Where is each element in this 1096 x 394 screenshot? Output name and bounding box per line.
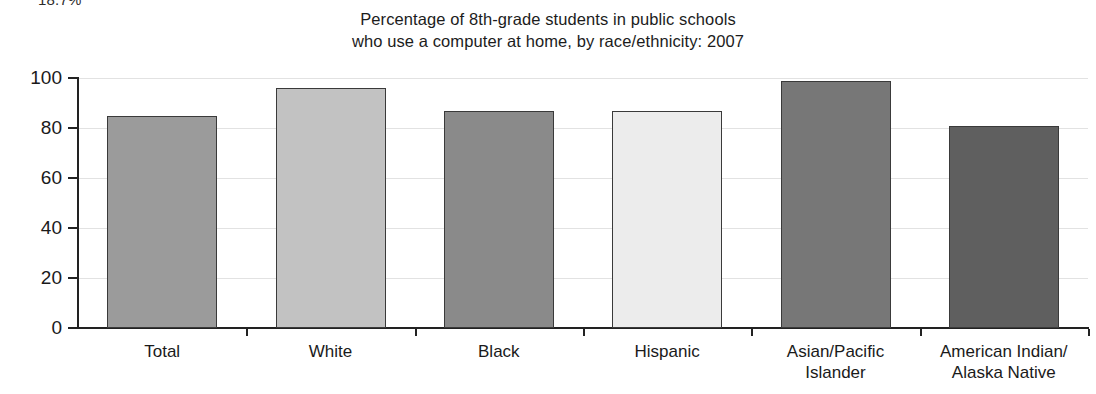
bar-black — [444, 111, 554, 329]
x-axis-tick — [751, 329, 753, 336]
clipped-text-fragment: 18.7% — [38, 0, 82, 8]
y-axis-tick — [68, 77, 78, 79]
chart-title-line-2: who use a computer at home, by race/ethn… — [0, 30, 1096, 52]
y-axis-tick-label: 20 — [0, 268, 62, 287]
y-axis-line — [77, 77, 79, 329]
category-label-line-1: White — [309, 342, 352, 361]
y-axis-tick — [68, 327, 78, 329]
bar-white — [276, 88, 386, 328]
y-axis-tick-label: 0 — [0, 318, 62, 337]
y-axis-tick — [68, 227, 78, 229]
y-axis-tick — [68, 127, 78, 129]
category-label-asian-pacific-islander: Asian/PacificIslander — [751, 341, 919, 383]
gridline — [78, 228, 1088, 229]
x-axis-tick — [246, 329, 248, 336]
bar-hispanic — [612, 111, 722, 329]
chart-title-line-1: Percentage of 8th-grade students in publ… — [0, 8, 1096, 30]
y-axis-tick-label: 60 — [0, 168, 62, 187]
category-label-white: White — [246, 341, 414, 362]
gridline — [78, 78, 1088, 79]
gridline — [78, 178, 1088, 179]
category-label-line-1: Black — [478, 342, 520, 361]
category-label-black: Black — [415, 341, 583, 362]
y-axis-tick-label: 100 — [0, 68, 62, 87]
y-axis-tick-label: 80 — [0, 118, 62, 137]
x-axis-tick — [920, 329, 922, 336]
x-axis-tick — [1088, 329, 1090, 336]
category-label-hispanic: Hispanic — [583, 341, 751, 362]
category-label-line-2: Alaska Native — [920, 362, 1088, 383]
plot-area — [78, 78, 1088, 328]
category-label-line-2: Islander — [751, 362, 919, 383]
x-axis-tick — [415, 329, 417, 336]
category-label-line-1: Hispanic — [635, 342, 700, 361]
bar-american-indian-alaska-native — [949, 126, 1059, 329]
x-axis-tick — [583, 329, 585, 336]
y-axis-tick-label: 40 — [0, 218, 62, 237]
category-label-total: Total — [78, 341, 246, 362]
gridline — [78, 278, 1088, 279]
y-axis-tick — [68, 177, 78, 179]
gridline — [78, 128, 1088, 129]
bar-asian-pacific-islander — [781, 81, 891, 329]
category-label-american-indian-alaska-native: American Indian/Alaska Native — [920, 341, 1088, 383]
chart-page: 18.7% Percentage of 8th-grade students i… — [0, 0, 1096, 394]
bar-total — [107, 116, 217, 329]
category-label-line-1: American Indian/ — [940, 342, 1068, 361]
chart-title: Percentage of 8th-grade students in publ… — [0, 8, 1096, 52]
category-label-line-1: Asian/Pacific — [787, 342, 884, 361]
category-label-line-1: Total — [144, 342, 180, 361]
y-axis-tick — [68, 277, 78, 279]
